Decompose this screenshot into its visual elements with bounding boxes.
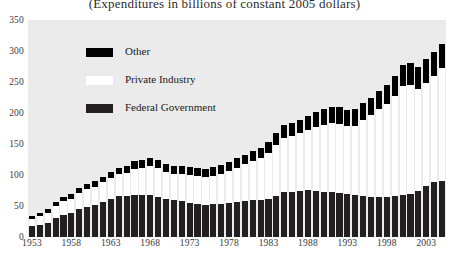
bar-segment xyxy=(131,161,137,168)
bar-segment xyxy=(37,225,43,237)
bar-segment xyxy=(139,195,145,237)
bar-segment xyxy=(273,133,279,145)
bar xyxy=(250,151,256,237)
bar-segment xyxy=(265,199,271,237)
bar-segment xyxy=(305,190,311,237)
bar-segment xyxy=(131,195,137,237)
bar-segment xyxy=(171,174,177,201)
bar xyxy=(37,213,43,237)
bar xyxy=(92,181,98,237)
bar xyxy=(392,76,398,237)
y-axis-tick-label: 50 xyxy=(14,201,24,211)
bar xyxy=(116,168,122,237)
bar-segment xyxy=(194,204,200,237)
bar-segment xyxy=(37,216,43,225)
bar xyxy=(179,166,185,237)
bar-segment xyxy=(226,171,232,203)
bar xyxy=(234,158,240,237)
bar-segment xyxy=(250,151,256,161)
bar-segment xyxy=(439,68,445,181)
bar-segment xyxy=(265,153,271,198)
x-axis-tick-label: 1973 xyxy=(180,238,200,248)
bar xyxy=(194,168,200,237)
bar xyxy=(273,133,279,237)
bar-segment xyxy=(124,196,130,237)
bar xyxy=(218,165,224,237)
bar-segment xyxy=(139,168,145,195)
bar-segment xyxy=(289,192,295,237)
bar-segment xyxy=(258,158,264,200)
bar-segment xyxy=(124,173,130,197)
bar xyxy=(60,197,66,237)
bar-segment xyxy=(187,203,193,237)
bar-segment xyxy=(179,201,185,237)
bar xyxy=(242,155,248,237)
bar-segment xyxy=(124,166,130,173)
bar-segment xyxy=(53,206,59,218)
bar xyxy=(360,103,366,237)
bar xyxy=(344,110,350,237)
bar-segment xyxy=(60,215,66,237)
bar-segment xyxy=(273,145,279,196)
bar-segment xyxy=(187,175,193,203)
bar-segment xyxy=(218,165,224,174)
bar-segment xyxy=(329,107,335,123)
bar-segment xyxy=(234,158,240,167)
y-axis-tick-label: 200 xyxy=(9,108,24,118)
bar-segment xyxy=(234,168,240,202)
bar-segment xyxy=(45,223,51,237)
x-axis-tick-label: 1953 xyxy=(22,238,42,248)
bar-segment xyxy=(234,202,240,237)
x-axis-tick-label: 1958 xyxy=(61,238,81,248)
bar-segment xyxy=(139,160,145,167)
bar xyxy=(163,164,169,237)
bar-segment xyxy=(368,115,374,196)
bar-segment xyxy=(329,192,335,237)
legend-label-private-industry: Private Industry xyxy=(125,72,196,87)
bar xyxy=(431,52,437,237)
bar-segment xyxy=(218,204,224,237)
bar-segment xyxy=(423,186,429,237)
bar-segment xyxy=(202,178,208,205)
bar xyxy=(265,142,271,237)
bar xyxy=(439,44,445,237)
bar-segment xyxy=(84,207,90,237)
bar-segment xyxy=(29,226,35,237)
chart-root: (Expenditures in billions of constant 20… xyxy=(0,0,449,254)
bar-segment xyxy=(415,67,421,89)
legend-swatch-other-icon xyxy=(86,48,113,57)
bar xyxy=(297,120,303,237)
bar xyxy=(68,194,74,237)
bar-segment xyxy=(336,124,342,193)
bar-segment xyxy=(218,174,224,204)
bar-segment xyxy=(194,168,200,176)
bar-segment xyxy=(344,126,350,194)
bar-segment xyxy=(108,172,114,178)
bar-segment xyxy=(384,85,390,104)
bar xyxy=(321,109,327,237)
bar-segment xyxy=(194,176,200,204)
legend-label-federal-government: Federal Government xyxy=(125,100,216,115)
bar xyxy=(155,160,161,237)
bar-segment xyxy=(439,181,445,237)
bar-segment xyxy=(407,194,413,237)
bar xyxy=(139,160,145,237)
bar-segment xyxy=(226,203,232,237)
bar-segment xyxy=(202,205,208,237)
bar-segment xyxy=(360,103,366,120)
bar xyxy=(407,63,413,237)
x-axis-tick-label: 1978 xyxy=(219,238,239,248)
bar-segment xyxy=(92,187,98,205)
bar-segment xyxy=(60,201,66,215)
bar xyxy=(147,158,153,237)
bar-segment xyxy=(265,142,271,153)
bar-segment xyxy=(131,169,137,195)
bar-segment xyxy=(29,216,35,219)
bar-segment xyxy=(400,65,406,86)
bar xyxy=(131,161,137,237)
chart-title: (Expenditures in billions of constant 20… xyxy=(0,0,449,12)
bar-segment xyxy=(171,200,177,237)
bar-segment xyxy=(116,174,122,196)
bar-segment xyxy=(336,193,342,237)
bar-segment xyxy=(76,209,82,237)
